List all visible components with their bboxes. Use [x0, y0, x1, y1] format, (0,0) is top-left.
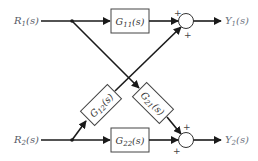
output-label-y2: Y2(s): [225, 134, 249, 147]
wire-g12-sum1: [115, 27, 181, 91]
wire-g21-sum2: [167, 117, 181, 134]
wire-r2-g12: [72, 121, 86, 140]
block-diagram: R1(s) G11(s) G21(s) R2(s) G12(s) G22(s): [0, 0, 258, 161]
input-label-r2: R2(s): [13, 134, 39, 147]
input-label-r1: R1(s): [13, 15, 39, 28]
summing-junction-1: + +: [174, 8, 194, 40]
svg-text:+: +: [173, 146, 181, 156]
svg-text:+: +: [184, 30, 192, 40]
block-g22: G22(s): [111, 128, 149, 152]
output-label-y1: Y1(s): [225, 15, 249, 28]
svg-text:+: +: [183, 122, 191, 132]
svg-text:+: +: [174, 8, 182, 18]
block-g11: G11(s): [111, 9, 149, 33]
